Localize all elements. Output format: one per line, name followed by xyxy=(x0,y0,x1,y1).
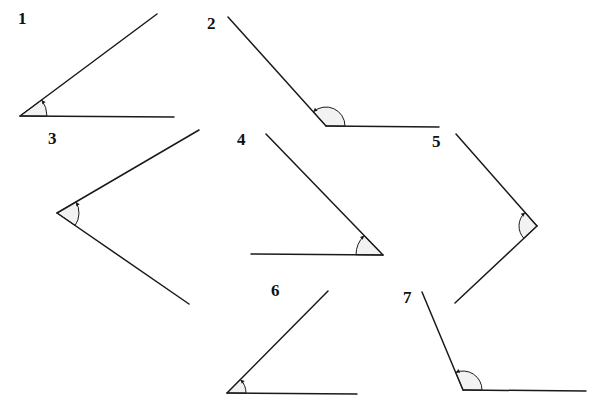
angle-ray-b xyxy=(20,116,174,117)
angle-number-label: 5 xyxy=(432,133,441,150)
angle-ray-a xyxy=(422,292,463,390)
angle-ray-a xyxy=(20,14,157,116)
angle-ray-a xyxy=(227,291,328,393)
angle-7 xyxy=(422,292,586,391)
angle-6 xyxy=(227,291,357,394)
angle-number-label: 3 xyxy=(48,130,57,147)
angle-5 xyxy=(455,134,537,303)
angle-number-label: 1 xyxy=(18,10,27,27)
angle-number-label: 6 xyxy=(271,282,280,299)
angle-arc xyxy=(57,202,79,226)
angle-ray-a xyxy=(57,130,199,213)
angle-number-label: 2 xyxy=(207,15,216,32)
angle-diagram-canvas: 1234567 xyxy=(0,0,592,406)
angle-ray-b xyxy=(463,390,586,391)
angle-ray-b xyxy=(251,254,383,255)
angle-ray-b xyxy=(227,393,357,394)
angle-arc xyxy=(356,236,383,255)
angle-ray-a xyxy=(456,134,537,226)
angle-3 xyxy=(57,130,199,304)
angle-number-label: 7 xyxy=(403,289,412,306)
angle-1 xyxy=(20,14,174,117)
angle-ray-b xyxy=(455,226,537,303)
angle-number-label: 4 xyxy=(237,131,246,148)
angle-4 xyxy=(251,134,383,255)
angle-2 xyxy=(228,17,439,127)
angle-ray-a xyxy=(228,17,326,126)
angle-ray-b xyxy=(57,213,189,304)
angle-ray-a xyxy=(266,134,383,255)
angle-ray-b xyxy=(326,126,439,127)
angles-svg xyxy=(0,0,592,406)
